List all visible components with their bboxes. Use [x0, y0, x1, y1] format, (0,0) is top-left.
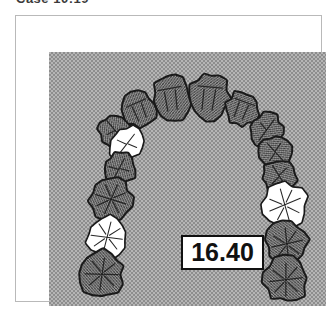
arch-diagram-panel: 16.40: [49, 52, 326, 306]
tooth-UR-third-molar: [260, 253, 308, 302]
measurement-value-box: 16.40: [181, 235, 264, 270]
tooth-outline: [185, 71, 235, 124]
page-title: Case 10:19: [16, 0, 89, 6]
tooth-UR-central-incisor: [185, 71, 235, 124]
image-frame: 16.40: [15, 15, 322, 302]
measurement-value: 16.40: [191, 240, 254, 265]
